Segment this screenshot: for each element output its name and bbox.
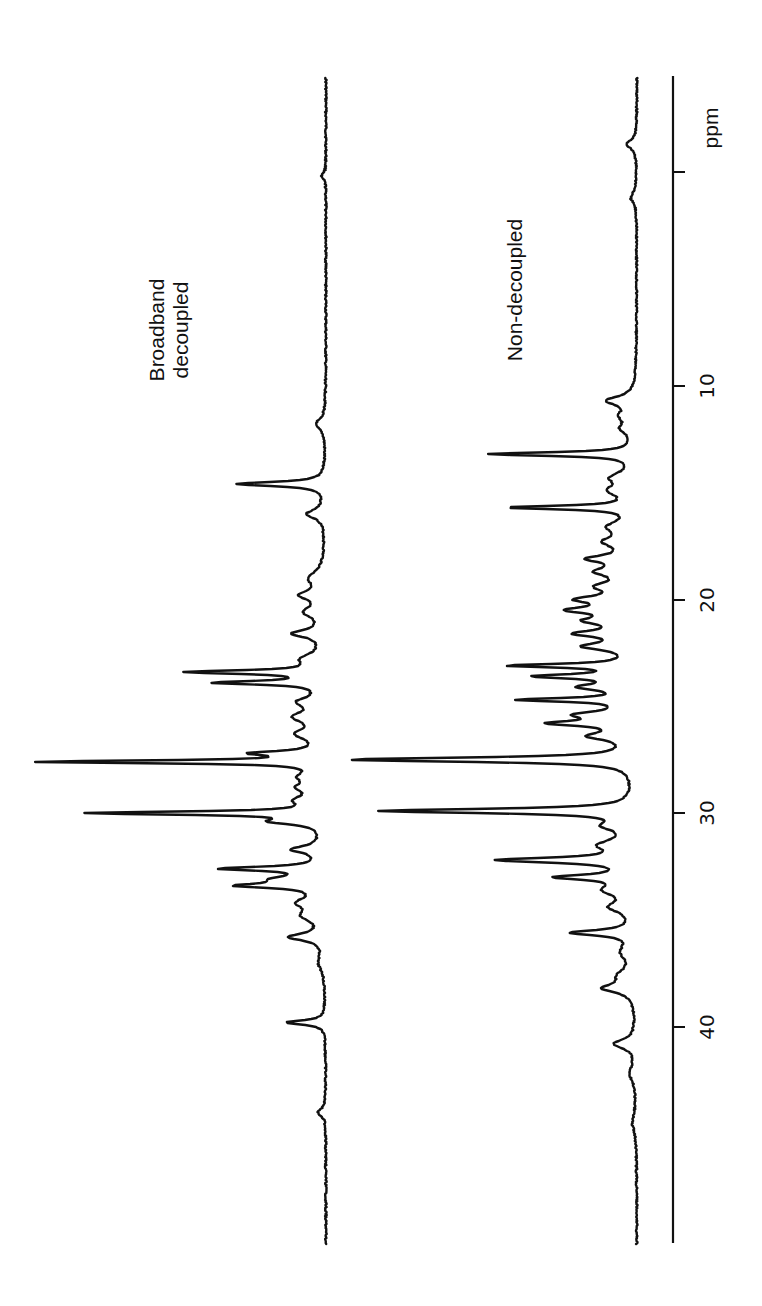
ppm-axis: 10 20 30 40 ppm [673,76,722,1243]
tick-label-10: 10 [695,373,719,398]
nmr-spectrum-chart: 10 20 30 40 ppm Broadband decoupled Non-… [0,0,762,1306]
tick-label-20: 20 [695,587,719,612]
tick-label-40: 40 [695,1014,719,1039]
broadband-label-line2: decoupled [169,282,192,379]
broadband-label-line1: Broadband [145,279,168,382]
nondecoupled-label: Non-decoupled [503,219,526,361]
broadband-decoupled-trace [35,78,327,1244]
spectra-traces [35,78,637,1244]
non-decoupled-trace [352,78,638,1244]
axis-unit-label: ppm [699,108,722,149]
series-labels: Broadband decoupled Non-decoupled [145,219,526,382]
tick-label-30: 30 [695,800,719,825]
